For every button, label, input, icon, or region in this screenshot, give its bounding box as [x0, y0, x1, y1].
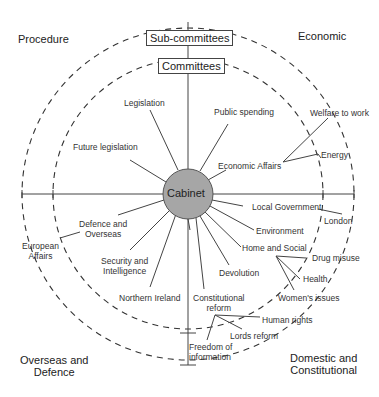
london: London	[324, 216, 352, 226]
womens-issues: Women's issues	[278, 293, 339, 303]
quadrant-procedure: Procedure	[18, 33, 69, 45]
home-and-social: Home and Social	[242, 243, 307, 253]
lords-reform: Lords reform	[230, 331, 278, 341]
health: Health	[303, 274, 328, 284]
legislation: Legislation	[124, 98, 165, 108]
devolution: Devolution	[219, 268, 259, 278]
freedom-of-information: Freedom of information	[189, 342, 232, 362]
local-government: Local Government	[252, 202, 321, 212]
public-spending: Public spending	[214, 107, 274, 117]
european-affairs: European Affairs	[22, 241, 59, 261]
cabinet-label: Cabinet	[167, 187, 205, 199]
economic-affairs: Economic Affairs	[218, 161, 281, 171]
sub-committees-label: Sub-committees	[146, 30, 233, 46]
defence-and-overseas: Defence and Overseas	[79, 219, 127, 239]
constitutional-reform: Constitutional reform	[193, 293, 245, 313]
security-and-intelligence: Security and Intelligence	[101, 256, 148, 276]
quadrant-domestic-constitutional: Domestic and Constitutional	[290, 352, 357, 376]
drug-misuse: Drug misuse	[312, 253, 360, 263]
quadrant-economic: Economic	[298, 30, 346, 42]
energy: Energy	[321, 150, 348, 160]
quadrant-overseas-defence: Overseas and Defence	[20, 354, 88, 378]
future-legislation: Future legislation	[73, 142, 138, 152]
northern-ireland: Northern Ireland	[119, 293, 180, 303]
human-rights: Human rights	[262, 315, 313, 325]
committees-label: Committees	[158, 58, 225, 74]
welfare-to-work: Welfare to work	[310, 108, 369, 118]
environment: Environment	[256, 226, 304, 236]
